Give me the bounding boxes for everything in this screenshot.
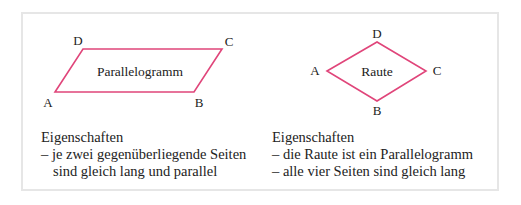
parallelogram-property: – je zwei gegenüberliegende Seiten [41, 146, 246, 163]
rhombus-vertex-d: D [372, 26, 381, 41]
parallelogram-vertex-a: A [43, 95, 53, 110]
parallelogram-properties: Eigenschaften – je zwei gegenüberliegend… [41, 129, 246, 180]
rhombus-vertex-c: C [433, 63, 442, 78]
parallelogram-vertex-d: D [73, 33, 82, 48]
parallelogram-label: Parallelogramm [97, 64, 184, 79]
rhombus-property: – alle vier Seiten sind gleich lang [272, 163, 473, 180]
parallelogram-property: sind gleich lang und parallel [41, 163, 246, 180]
parallelogram-vertex-b: B [195, 95, 204, 110]
rhombus-property: – die Raute ist ein Parallelogramm [272, 146, 473, 163]
rhombus-vertex-a: A [310, 63, 320, 78]
rhombus-properties-heading: Eigenschaften [272, 129, 473, 146]
parallelogram-vertex-c: C [225, 34, 234, 49]
rhombus-label: Raute [361, 64, 393, 79]
rhombus-vertex-b: B [373, 103, 382, 118]
rhombus-properties: Eigenschaften – die Raute ist ein Parall… [272, 129, 473, 180]
parallelogram-properties-heading: Eigenschaften [41, 129, 246, 146]
